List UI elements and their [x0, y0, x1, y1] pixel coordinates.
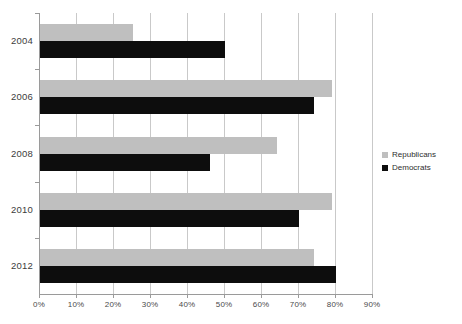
gridline	[372, 13, 373, 294]
bar-2012-republicans	[40, 249, 314, 266]
bar-chart: 0%10%20%30%40%50%60%70%80%90% 2004200620…	[0, 0, 462, 324]
bar-2008-democrats	[40, 154, 210, 171]
y-axis-label-2008: 2008	[0, 148, 33, 159]
bar-2010-democrats	[40, 210, 299, 227]
y-axis-tick	[35, 69, 39, 70]
y-axis-label-2012: 2012	[0, 260, 33, 271]
y-axis-tick	[35, 238, 39, 239]
y-axis-label-2006: 2006	[0, 91, 33, 102]
x-axis-tick-label: 10%	[56, 300, 96, 309]
y-axis-label-2010: 2010	[0, 204, 33, 215]
x-axis-line	[39, 294, 372, 295]
bar-2008-republicans	[40, 137, 277, 154]
x-axis-tick	[76, 294, 77, 298]
y-axis-line	[39, 13, 40, 294]
x-axis-tick	[113, 294, 114, 298]
legend-swatch-republicans-icon	[382, 152, 388, 158]
legend-label-republicans: Republicans	[392, 151, 436, 159]
x-axis-tick-label: 20%	[93, 300, 133, 309]
bar-2004-republicans	[40, 24, 133, 41]
bar-2006-republicans	[40, 80, 332, 97]
x-axis-tick	[150, 294, 151, 298]
x-axis-tick	[187, 294, 188, 298]
x-axis-tick-label: 40%	[167, 300, 207, 309]
x-axis-tick-label: 60%	[241, 300, 281, 309]
x-axis-tick	[335, 294, 336, 298]
legend: Republicans Democrats	[382, 148, 436, 174]
y-axis-label-2004: 2004	[0, 35, 33, 46]
bar-2012-democrats	[40, 266, 336, 283]
y-axis-tick	[35, 125, 39, 126]
y-axis-tick	[35, 182, 39, 183]
x-axis-tick-label: 90%	[352, 300, 392, 309]
bar-2006-democrats	[40, 97, 314, 114]
bar-2004-democrats	[40, 41, 225, 58]
x-axis-tick	[261, 294, 262, 298]
bar-2010-republicans	[40, 193, 332, 210]
x-axis-tick	[298, 294, 299, 298]
x-axis-tick-label: 80%	[315, 300, 355, 309]
y-axis-tick	[35, 13, 39, 14]
gridline	[335, 13, 336, 294]
x-axis-tick	[372, 294, 373, 298]
x-axis-tick	[39, 294, 40, 298]
plot-area	[39, 13, 372, 294]
x-axis-tick-label: 70%	[278, 300, 318, 309]
legend-item-republicans: Republicans	[382, 148, 436, 161]
legend-swatch-democrats-icon	[382, 165, 388, 171]
legend-label-democrats: Democrats	[392, 164, 431, 172]
x-axis-tick-label: 0%	[19, 300, 59, 309]
x-axis-tick	[224, 294, 225, 298]
legend-item-democrats: Democrats	[382, 161, 436, 174]
x-axis-tick-label: 30%	[130, 300, 170, 309]
x-axis-tick-label: 50%	[204, 300, 244, 309]
